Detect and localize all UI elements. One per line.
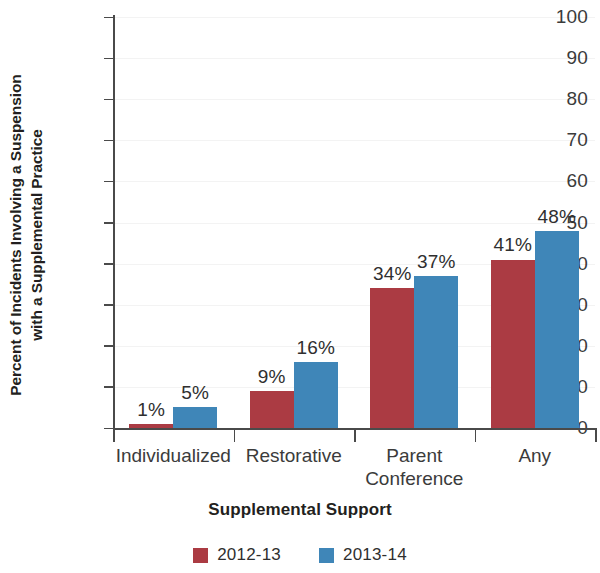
y-axis-tick <box>104 345 113 347</box>
bar-value-label: 41% <box>480 234 546 256</box>
legend: 2012-132013-14 <box>0 545 600 565</box>
x-axis-tick <box>113 430 115 442</box>
y-axis-tick <box>104 222 113 224</box>
x-axis-tick <box>595 430 597 442</box>
x-axis-tick <box>475 430 477 442</box>
y-axis-title-line-1: Percent of Incidents Involving a Suspens… <box>5 15 26 455</box>
bar <box>370 288 414 428</box>
x-axis-category-label-line: Any <box>461 444 600 467</box>
y-axis-title-line-2: with a Supplemental Practice <box>26 15 47 455</box>
legend-item: 2013-14 <box>319 545 407 565</box>
y-axis-tick <box>104 181 113 183</box>
y-axis-tick <box>104 17 113 19</box>
x-axis-tick <box>354 430 356 442</box>
y-axis-tick <box>104 428 113 430</box>
legend-swatch <box>319 548 334 563</box>
bar-value-label: 16% <box>283 337 349 359</box>
y-axis-tick <box>104 386 113 388</box>
x-axis-tick <box>234 430 236 442</box>
plot-area <box>113 17 595 428</box>
legend-swatch <box>193 548 208 563</box>
x-axis-category-label: Any <box>461 444 600 467</box>
bar <box>250 391 294 428</box>
legend-label: 2012-13 <box>217 545 281 565</box>
y-axis-title: Percent of Incidents Involving a Suspens… <box>0 0 52 470</box>
bar-value-label: 37% <box>403 251 469 273</box>
bar <box>491 260 535 429</box>
y-axis-tick <box>104 58 113 60</box>
legend-label: 2013-14 <box>343 545 407 565</box>
bar-value-label: 9% <box>239 366 305 388</box>
bar-chart: Percent of Incidents Involving a Suspens… <box>0 0 600 573</box>
x-axis-title: Supplemental Support <box>0 500 600 520</box>
bar-value-label: 5% <box>162 382 228 404</box>
y-axis-tick <box>104 263 113 265</box>
y-axis-tick <box>104 304 113 306</box>
legend-item: 2012-13 <box>193 545 281 565</box>
x-axis-category-label-line: Conference <box>340 467 489 490</box>
y-axis-tick <box>104 140 113 142</box>
bar <box>129 424 173 428</box>
bar <box>414 276 458 428</box>
bar <box>535 231 579 428</box>
y-axis-tick <box>104 99 113 101</box>
bar-value-label: 48% <box>524 206 590 228</box>
